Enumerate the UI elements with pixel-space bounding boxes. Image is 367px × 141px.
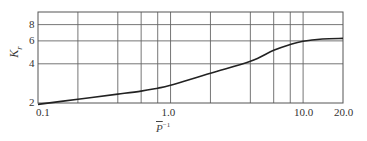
y-tick-label: 2 [29,97,35,108]
x-tick-label: 10.0 [294,107,313,118]
y-axis-label-base: K [7,50,21,58]
y-axis-label-sub: r [15,47,24,50]
x-axis-label-sup: −1 [163,121,170,129]
y-tick-label: 6 [29,35,35,46]
x-axis-label-base: P [156,122,163,134]
y-tick-label: 4 [29,58,35,69]
x-tick-label: 0.1 [36,107,50,118]
chart-plot [0,0,367,141]
x-tick-label: 20.0 [334,107,353,118]
x-tick-label: 1.0 [162,107,176,118]
grid-lines [38,12,343,103]
y-tick-label: 8 [29,19,35,30]
plot-frame [38,12,343,103]
x-axis-label: P−1 [156,121,170,134]
kr-curve [38,38,343,104]
y-axis-label: Kr [7,47,23,58]
